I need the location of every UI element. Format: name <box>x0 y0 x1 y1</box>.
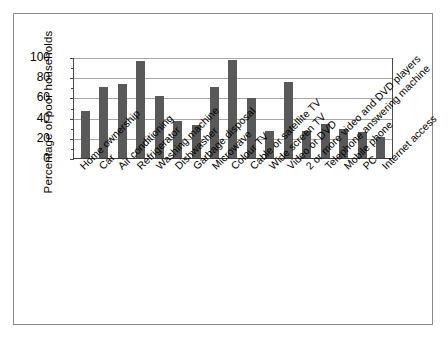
y-tick-label: 20 <box>16 132 50 144</box>
chart-figure-frame: Percentage of poor households 0204060801… <box>13 13 433 325</box>
y-tick-label: 60 <box>16 91 50 103</box>
x-axis-tick-labels: Home ownershipCarAir conditioningRefrige… <box>73 160 403 320</box>
y-tick-label: 80 <box>16 71 50 83</box>
y-tick-label: 0 <box>16 152 50 164</box>
y-tick-label: 100 <box>16 51 50 63</box>
y-tick-label: 40 <box>16 112 50 124</box>
